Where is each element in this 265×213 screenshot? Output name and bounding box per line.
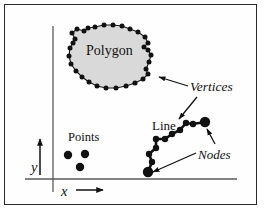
polygon-label: Polygon xyxy=(86,44,133,58)
point-marker xyxy=(81,150,89,158)
vertices-label: Vertices xyxy=(190,80,233,94)
nodes-leader-to-end-node xyxy=(207,129,215,144)
line-label: Line xyxy=(152,119,176,132)
y-axis-label: y xyxy=(31,160,37,175)
vertices-leader-to-line xyxy=(179,97,197,119)
line-end-node xyxy=(200,117,210,127)
nodes-label: Nodes xyxy=(198,148,231,161)
point-features xyxy=(64,150,89,171)
vector-data-diagram-canvas xyxy=(0,0,265,213)
x-axis-label: x xyxy=(61,184,67,199)
figure-root: Polygon Points Line Vertices Nodes y x xyxy=(0,0,265,213)
nodes-leader-to-start-node xyxy=(153,153,196,172)
point-marker xyxy=(76,163,84,171)
points-label: Points xyxy=(68,131,99,144)
vertices-leader-to-polygon xyxy=(159,77,188,86)
point-marker xyxy=(64,151,72,159)
line-start-node xyxy=(143,167,153,177)
